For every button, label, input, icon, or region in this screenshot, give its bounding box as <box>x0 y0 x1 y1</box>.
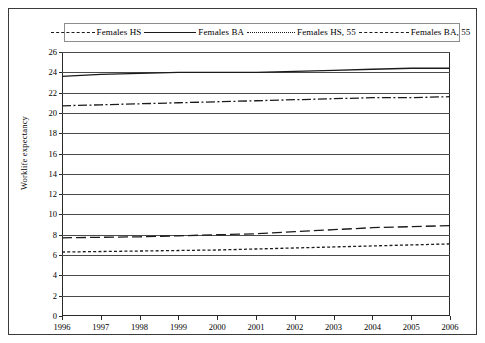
y-tick-label: 22 <box>49 88 58 98</box>
x-tick-label: 1997 <box>92 322 109 332</box>
x-tick-mark <box>295 316 296 320</box>
x-tick-label: 2002 <box>286 322 303 332</box>
y-tick-label: 20 <box>49 108 58 118</box>
y-tick-label: 6 <box>53 250 57 260</box>
y-tick-label: 8 <box>53 230 57 240</box>
legend-entry-females-ba-55: Females BA, 55 <box>359 28 474 37</box>
legend-entry-females-ba: Females BA <box>144 28 247 37</box>
x-tick-mark <box>178 316 179 320</box>
y-tick-label: 10 <box>49 209 58 219</box>
x-tick-mark <box>217 316 218 320</box>
x-tick-mark <box>256 316 257 320</box>
legend-label-females-hs-55: Females HS, 55 <box>295 28 359 37</box>
x-tick-label: 1999 <box>170 322 187 332</box>
legend-entry-females-hs-55: Females HS, 55 <box>247 28 359 37</box>
x-tick-label: 2003 <box>325 322 342 332</box>
x-tick-mark <box>334 316 335 320</box>
x-tick-mark <box>411 316 412 320</box>
legend-swatch-long-dash-icon <box>359 32 409 33</box>
legend-label-females-hs: Females HS <box>95 28 145 37</box>
series-line <box>62 68 450 76</box>
x-tick-mark <box>101 316 102 320</box>
plot-area: 02468101214161820222426 1996199719981999… <box>62 52 450 316</box>
y-tick-label: 0 <box>53 311 57 321</box>
y-tick-label: 2 <box>53 291 57 301</box>
legend-swatch-dotted-icon <box>247 32 295 33</box>
y-tick-label: 12 <box>49 189 58 199</box>
series-line <box>62 97 450 106</box>
x-tick-label: 2006 <box>442 322 459 332</box>
y-tick-label: 16 <box>49 149 58 159</box>
y-tick-label: 24 <box>49 67 58 77</box>
x-tick-mark <box>450 316 451 320</box>
x-tick-mark <box>62 316 63 320</box>
x-tick-label: 2005 <box>403 322 420 332</box>
x-tick-label: 1996 <box>54 322 71 332</box>
legend-swatch-solid-icon <box>144 32 196 33</box>
x-tick-label: 2000 <box>209 322 226 332</box>
legend-entry-females-hs: Females HS <box>51 28 145 37</box>
x-tick-label: 2004 <box>364 322 381 332</box>
x-tick-label: 2001 <box>248 322 265 332</box>
chart-figure: Females HS Females BA Females HS, 55 Fem… <box>0 0 485 343</box>
x-tick-mark <box>140 316 141 320</box>
x-tick-mark <box>372 316 373 320</box>
y-tick-label: 14 <box>49 169 58 179</box>
series-line <box>62 244 450 252</box>
series-lines <box>62 52 450 316</box>
legend-swatch-dash-dot-icon <box>51 32 95 33</box>
y-tick-label: 26 <box>49 47 58 57</box>
x-tick-label: 1998 <box>131 322 148 332</box>
y-tick-label: 18 <box>49 128 58 138</box>
legend-label-females-ba: Females BA <box>196 28 247 37</box>
y-axis-title: Worklife expectancy <box>19 83 29 223</box>
series-line <box>62 226 450 238</box>
legend-label-females-ba-55: Females BA, 55 <box>409 28 474 37</box>
y-tick-label: 4 <box>53 270 57 280</box>
chart-legend: Females HS Females BA Females HS, 55 Fem… <box>64 23 460 42</box>
